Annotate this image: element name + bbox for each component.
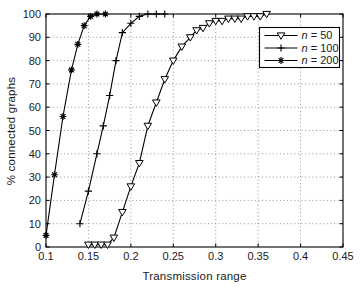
legend-label: n = 100 <box>302 42 339 54</box>
y-tick-label: 90 <box>29 31 41 43</box>
asterisk-glyph <box>43 232 50 239</box>
asterisk-marker-icon <box>68 67 75 74</box>
y-axis-title: % connected graphs <box>5 77 17 185</box>
x-tick-label: 0.2 <box>123 250 138 262</box>
y-tick-label: 0 <box>35 241 41 253</box>
y-tick-label: 20 <box>29 194 41 206</box>
legend: n = 50n = 100n = 200 <box>260 28 340 68</box>
asterisk-glyph <box>68 67 75 74</box>
legend-label: n = 50 <box>302 29 333 41</box>
x-tick-label: 0.45 <box>332 250 353 262</box>
x-tick-label: 0.25 <box>163 250 184 262</box>
x-tick-label: 0.15 <box>78 250 99 262</box>
asterisk-marker-icon <box>60 113 67 120</box>
asterisk-marker-icon <box>278 57 285 64</box>
asterisk-glyph <box>74 41 81 48</box>
asterisk-glyph <box>60 113 67 120</box>
asterisk-glyph <box>94 11 101 18</box>
legend-label: n = 200 <box>302 54 339 66</box>
asterisk-marker-icon <box>94 11 101 18</box>
line-chart: 0.10.150.20.250.30.350.40.45010203040506… <box>0 0 360 292</box>
asterisk-glyph <box>278 57 285 64</box>
x-tick-label: 0.3 <box>208 250 223 262</box>
y-tick-label: 30 <box>29 171 41 183</box>
asterisk-glyph <box>51 171 58 178</box>
asterisk-marker-icon <box>74 41 81 48</box>
asterisk-marker-icon <box>102 11 109 18</box>
asterisk-glyph <box>102 11 109 18</box>
y-tick-label: 70 <box>29 78 41 90</box>
x-tick-label: 0.4 <box>293 250 308 262</box>
asterisk-marker-icon <box>87 13 94 20</box>
y-tick-label: 100 <box>23 8 41 20</box>
x-tick-label: 0.35 <box>247 250 268 262</box>
asterisk-glyph <box>87 13 94 20</box>
y-tick-label: 50 <box>29 125 41 137</box>
y-tick-label: 80 <box>29 55 41 67</box>
figure: 0.10.150.20.250.30.350.40.45010203040506… <box>0 0 360 292</box>
x-axis-title: Transmission range <box>46 270 343 282</box>
asterisk-marker-icon <box>81 22 88 29</box>
asterisk-glyph <box>81 22 88 29</box>
asterisk-marker-icon <box>51 171 58 178</box>
y-tick-label: 60 <box>29 101 41 113</box>
y-tick-label: 40 <box>29 148 41 160</box>
y-tick-label: 10 <box>29 218 41 230</box>
asterisk-marker-icon <box>43 232 50 239</box>
